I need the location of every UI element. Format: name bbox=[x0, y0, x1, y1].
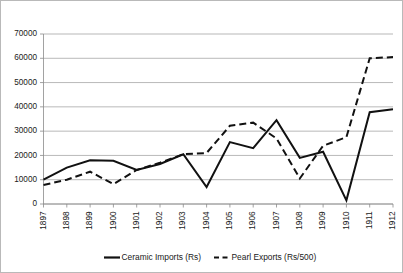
legend-label-2: Pearl Exports (Rs/500) bbox=[232, 252, 317, 262]
x-axis-label: 1911 bbox=[365, 211, 374, 229]
x-axis-label: 1905 bbox=[225, 211, 234, 230]
x-axis-label: 1907 bbox=[272, 211, 281, 230]
gridlines-group bbox=[44, 34, 394, 204]
chart-plot-area: 010000200003000040000500006000070000 189… bbox=[1, 1, 403, 273]
x-axis-labels-group: 1897189818991900190119021903190419051906… bbox=[39, 211, 398, 230]
x-axis-label: 1903 bbox=[178, 211, 187, 230]
y-axis-label: 20000 bbox=[14, 151, 37, 160]
x-axis-label: 1904 bbox=[202, 211, 211, 230]
x-axis-label: 1898 bbox=[62, 211, 71, 230]
x-axis-label: 1901 bbox=[132, 211, 141, 230]
chart-frame: 010000200003000040000500006000070000 189… bbox=[0, 0, 403, 273]
y-axis-label: 40000 bbox=[14, 102, 37, 111]
series-line-1 bbox=[44, 109, 394, 200]
x-axis-label: 1899 bbox=[85, 211, 94, 230]
x-axis-label: 1897 bbox=[39, 211, 48, 230]
x-axis-label: 1909 bbox=[318, 211, 327, 230]
x-axis-label: 1910 bbox=[342, 211, 351, 230]
x-axis-label: 1908 bbox=[295, 211, 304, 230]
y-axis-label: 10000 bbox=[14, 175, 37, 184]
y-axis-label: 60000 bbox=[14, 53, 37, 62]
series-lines-group bbox=[44, 57, 394, 200]
y-axis-label: 70000 bbox=[14, 29, 37, 38]
x-axis-label: 1900 bbox=[109, 211, 118, 230]
legend: Ceramic Imports (Rs)Pearl Exports (Rs/50… bbox=[104, 252, 316, 262]
axes-group bbox=[44, 34, 394, 204]
x-axis-label: 1902 bbox=[155, 211, 164, 230]
x-axis-ticks-group bbox=[44, 204, 394, 208]
y-axis-label: 30000 bbox=[14, 126, 37, 135]
y-axis-label: 0 bbox=[32, 199, 37, 208]
y-axis-label: 50000 bbox=[14, 78, 37, 87]
line-chart: 010000200003000040000500006000070000 189… bbox=[1, 1, 403, 273]
legend-label-1: Ceramic Imports (Rs) bbox=[122, 252, 202, 262]
y-axis-ticks-group bbox=[40, 34, 44, 204]
x-axis-label: 1906 bbox=[248, 211, 257, 230]
x-axis-label: 1912 bbox=[388, 211, 397, 230]
y-axis-labels-group: 010000200003000040000500006000070000 bbox=[14, 29, 37, 208]
